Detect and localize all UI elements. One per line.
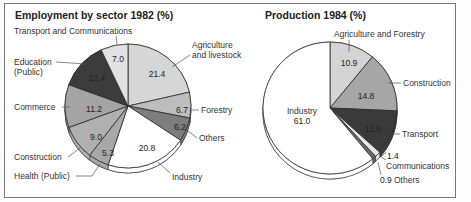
right-pie-slices: [263, 42, 397, 174]
label-transport: Transport: [402, 129, 439, 139]
leader-line: [56, 62, 86, 64]
employment-pie-chart: Employment by sector 1982 (%) Transport …: [14, 9, 242, 182]
label-education: Education: [14, 57, 52, 67]
label-forestry: Forestry: [201, 105, 233, 115]
charts-canvas: Employment by sector 1982 (%) Transport …: [0, 0, 471, 202]
label-agriculture-forestry: Agriculture and Forestry: [334, 29, 425, 39]
right-chart-title: Production 1984 (%): [265, 9, 366, 21]
leader-line: [116, 36, 117, 44]
value-transport: 11.0: [365, 124, 381, 134]
label-industry: Industry: [287, 106, 318, 116]
label-construction: Construction: [14, 152, 62, 162]
value-transport: 7.0: [112, 54, 124, 64]
label-livestock: and livestock: [192, 50, 242, 60]
value-construction: 14.8: [358, 91, 375, 101]
label-industry: Industry: [172, 172, 203, 182]
label-communications: Communications: [386, 161, 449, 171]
leader-line: [158, 162, 170, 173]
left-pie-slices: [65, 44, 191, 168]
value-others: 0.9: [380, 175, 392, 185]
value-forestry: 6.7: [176, 105, 188, 115]
value-communications: 1.4: [387, 151, 399, 161]
label-health: Health (Public): [14, 171, 70, 181]
value-education: 12.4: [89, 73, 106, 83]
value-industry: 20.8: [139, 143, 156, 153]
label-education-public: (Public): [14, 67, 43, 77]
value-others: 6.2: [174, 122, 186, 132]
leader-line: [76, 164, 100, 176]
value-commerce: 11.2: [86, 104, 102, 114]
leader-line: [172, 55, 190, 67]
value-industry: 61.0: [294, 116, 311, 126]
label-construction: Construction: [403, 78, 451, 88]
leader-line: [378, 162, 381, 175]
label-others: Others: [394, 175, 420, 185]
label-commerce: Commerce: [14, 102, 56, 112]
leader-line: [68, 148, 80, 157]
production-pie-chart: Production 1984 (%) Agriculture and Fore…: [263, 9, 451, 185]
label-agriculture: Agriculture: [192, 40, 233, 50]
label-others: Others: [199, 133, 225, 143]
left-chart-title: Employment by sector 1982 (%): [15, 9, 173, 21]
value-health: 5.3: [102, 148, 114, 158]
label-transport-communications: Transport and Communications: [14, 26, 132, 36]
value-construction: 9.0: [90, 132, 102, 142]
value-agriculture: 10.9: [341, 58, 358, 68]
value-agriculture: 21.4: [149, 69, 166, 79]
leader-line: [188, 131, 197, 138]
